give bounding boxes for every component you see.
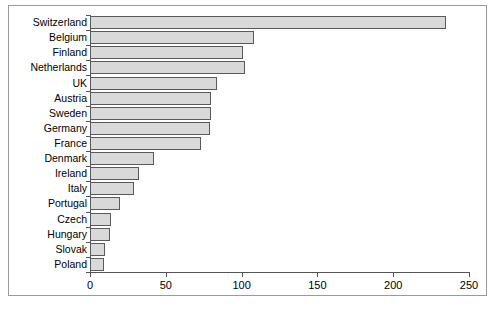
y-tick bbox=[86, 196, 90, 197]
bar bbox=[90, 77, 217, 90]
category-label: Ireland bbox=[9, 167, 87, 180]
category-label: Germany bbox=[9, 122, 87, 135]
x-tick-label: 200 bbox=[384, 279, 402, 291]
category-label: UK bbox=[9, 77, 87, 90]
bar bbox=[90, 92, 211, 105]
bar bbox=[90, 152, 154, 165]
x-tick bbox=[469, 272, 470, 277]
y-tick bbox=[86, 181, 90, 182]
bar bbox=[90, 61, 245, 74]
y-tick bbox=[86, 212, 90, 213]
x-tick-label: 0 bbox=[87, 279, 93, 291]
x-tick-label: 50 bbox=[160, 279, 172, 291]
category-label: Poland bbox=[9, 258, 87, 271]
bar bbox=[90, 16, 446, 29]
category-label: Czech bbox=[9, 213, 87, 226]
bar bbox=[90, 31, 254, 44]
bar bbox=[90, 258, 104, 271]
x-tick-label: 250 bbox=[460, 279, 478, 291]
y-tick bbox=[86, 136, 90, 137]
category-label: Switzerland bbox=[9, 16, 87, 29]
category-label: Austria bbox=[9, 92, 87, 105]
y-tick bbox=[86, 166, 90, 167]
x-tick bbox=[317, 272, 318, 277]
y-tick bbox=[86, 91, 90, 92]
category-label: Sweden bbox=[9, 107, 87, 120]
y-tick bbox=[86, 75, 90, 76]
bar bbox=[90, 182, 134, 195]
chart-page: SwitzerlandBelgiumFinlandNetherlandsUKAu… bbox=[0, 0, 499, 314]
y-tick bbox=[86, 151, 90, 152]
category-label: France bbox=[9, 137, 87, 150]
category-label: Belgium bbox=[9, 31, 87, 44]
x-tick-label: 150 bbox=[308, 279, 326, 291]
category-axis-labels: SwitzerlandBelgiumFinlandNetherlandsUKAu… bbox=[9, 15, 87, 272]
y-tick bbox=[86, 15, 90, 16]
category-label: Netherlands bbox=[9, 61, 87, 74]
bar bbox=[90, 107, 211, 120]
y-tick bbox=[86, 30, 90, 31]
y-tick bbox=[86, 227, 90, 228]
category-label: Denmark bbox=[9, 152, 87, 165]
y-tick bbox=[86, 45, 90, 46]
bar bbox=[90, 243, 105, 256]
y-tick bbox=[86, 60, 90, 61]
figure-frame: SwitzerlandBelgiumFinlandNetherlandsUKAu… bbox=[8, 5, 487, 296]
y-tick bbox=[86, 106, 90, 107]
category-label: Italy bbox=[9, 182, 87, 195]
category-label: Portugal bbox=[9, 197, 87, 210]
category-label: Finland bbox=[9, 46, 87, 59]
category-label: Slovak bbox=[9, 243, 87, 256]
y-tick bbox=[86, 121, 90, 122]
bar bbox=[90, 137, 201, 150]
bar bbox=[90, 228, 110, 241]
y-tick bbox=[86, 257, 90, 258]
bar bbox=[90, 167, 139, 180]
x-tick bbox=[90, 272, 91, 277]
x-tick bbox=[166, 272, 167, 277]
x-tick-label: 100 bbox=[232, 279, 250, 291]
plot-area: 050100150200250 bbox=[90, 15, 469, 272]
bar bbox=[90, 213, 111, 226]
category-label: Hungary bbox=[9, 228, 87, 241]
x-tick bbox=[393, 272, 394, 277]
bar bbox=[90, 122, 210, 135]
x-axis-line bbox=[90, 272, 469, 273]
bar bbox=[90, 46, 243, 59]
x-tick bbox=[242, 272, 243, 277]
y-tick bbox=[86, 242, 90, 243]
bar bbox=[90, 197, 120, 210]
